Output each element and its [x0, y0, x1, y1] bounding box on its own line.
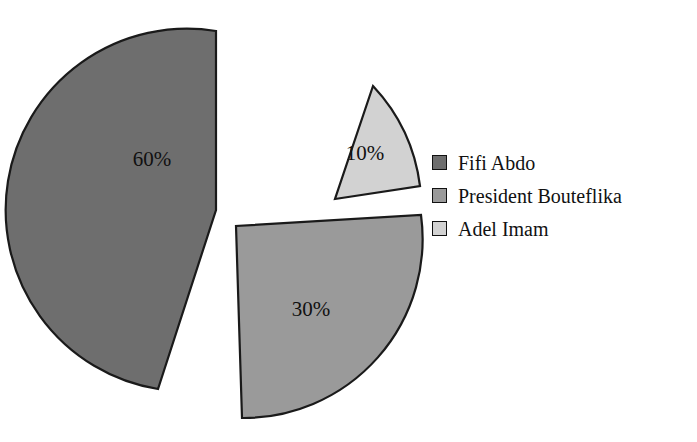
legend-swatch-icon [432, 221, 447, 236]
pie-slice-label-10: 10% [346, 141, 385, 165]
pie-slice-label-30: 30% [292, 297, 331, 321]
legend-item-label: Fifi Abdo [458, 153, 535, 173]
legend-item-label: Adel Imam [458, 219, 549, 239]
legend-item-fifi-abdo[interactable]: Fifi Abdo [432, 146, 688, 179]
pie-slice-label-60: 60% [133, 147, 172, 171]
legend-item-adel-imam[interactable]: Adel Imam [432, 212, 688, 245]
legend-item-label: President Bouteflika [458, 186, 622, 206]
legend-swatch-icon [432, 188, 447, 203]
pie-slice-fifi-abdo[interactable] [6, 29, 216, 389]
legend-item-president-bouteflika[interactable]: President Bouteflika [432, 179, 688, 212]
chart-legend: Fifi Abdo President Bouteflika Adel Imam [432, 146, 688, 245]
pie-chart: 60% 30% 10% Fifi Abdo President Boutefli… [0, 0, 697, 442]
legend-swatch-icon [432, 155, 447, 170]
